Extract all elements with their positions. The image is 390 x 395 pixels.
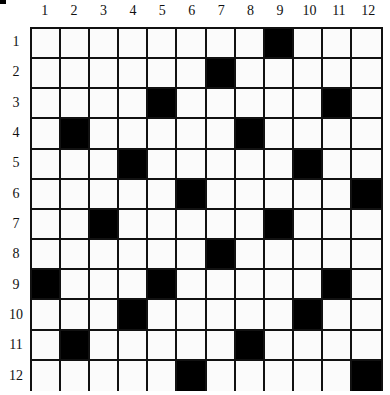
white-cell[interactable] xyxy=(294,59,323,89)
white-cell[interactable] xyxy=(294,240,323,270)
white-cell[interactable] xyxy=(61,89,90,119)
white-cell[interactable] xyxy=(119,59,148,89)
white-cell[interactable] xyxy=(294,29,323,59)
white-cell[interactable] xyxy=(148,240,177,270)
white-cell[interactable] xyxy=(177,300,206,330)
white-cell[interactable] xyxy=(119,119,148,149)
white-cell[interactable] xyxy=(148,150,177,180)
white-cell[interactable] xyxy=(177,240,206,270)
white-cell[interactable] xyxy=(236,210,265,240)
white-cell[interactable] xyxy=(207,210,236,240)
white-cell[interactable] xyxy=(119,89,148,119)
white-cell[interactable] xyxy=(352,150,381,180)
white-cell[interactable] xyxy=(61,150,90,180)
white-cell[interactable] xyxy=(352,29,381,59)
white-cell[interactable] xyxy=(90,180,119,210)
white-cell[interactable] xyxy=(352,300,381,330)
white-cell[interactable] xyxy=(177,89,206,119)
white-cell[interactable] xyxy=(352,89,381,119)
white-cell[interactable] xyxy=(323,331,352,361)
white-cell[interactable] xyxy=(236,361,265,391)
white-cell[interactable] xyxy=(90,59,119,89)
white-cell[interactable] xyxy=(265,150,294,180)
white-cell[interactable] xyxy=(207,180,236,210)
white-cell[interactable] xyxy=(119,210,148,240)
white-cell[interactable] xyxy=(236,89,265,119)
white-cell[interactable] xyxy=(294,180,323,210)
white-cell[interactable] xyxy=(265,89,294,119)
white-cell[interactable] xyxy=(32,180,61,210)
white-cell[interactable] xyxy=(294,270,323,300)
white-cell[interactable] xyxy=(207,150,236,180)
white-cell[interactable] xyxy=(148,361,177,391)
white-cell[interactable] xyxy=(32,240,61,270)
white-cell[interactable] xyxy=(90,300,119,330)
white-cell[interactable] xyxy=(207,331,236,361)
white-cell[interactable] xyxy=(148,59,177,89)
white-cell[interactable] xyxy=(265,331,294,361)
white-cell[interactable] xyxy=(294,89,323,119)
white-cell[interactable] xyxy=(352,210,381,240)
white-cell[interactable] xyxy=(177,119,206,149)
white-cell[interactable] xyxy=(61,29,90,59)
white-cell[interactable] xyxy=(148,210,177,240)
white-cell[interactable] xyxy=(294,331,323,361)
white-cell[interactable] xyxy=(32,150,61,180)
white-cell[interactable] xyxy=(61,59,90,89)
white-cell[interactable] xyxy=(207,270,236,300)
white-cell[interactable] xyxy=(177,59,206,89)
white-cell[interactable] xyxy=(148,119,177,149)
white-cell[interactable] xyxy=(323,150,352,180)
white-cell[interactable] xyxy=(90,150,119,180)
white-cell[interactable] xyxy=(32,29,61,59)
white-cell[interactable] xyxy=(265,270,294,300)
white-cell[interactable] xyxy=(61,270,90,300)
white-cell[interactable] xyxy=(90,89,119,119)
white-cell[interactable] xyxy=(352,240,381,270)
white-cell[interactable] xyxy=(236,270,265,300)
white-cell[interactable] xyxy=(207,29,236,59)
white-cell[interactable] xyxy=(265,180,294,210)
white-cell[interactable] xyxy=(323,240,352,270)
white-cell[interactable] xyxy=(90,29,119,59)
white-cell[interactable] xyxy=(177,29,206,59)
white-cell[interactable] xyxy=(119,29,148,59)
white-cell[interactable] xyxy=(323,361,352,391)
white-cell[interactable] xyxy=(352,270,381,300)
white-cell[interactable] xyxy=(323,180,352,210)
white-cell[interactable] xyxy=(236,180,265,210)
white-cell[interactable] xyxy=(119,331,148,361)
white-cell[interactable] xyxy=(323,59,352,89)
white-cell[interactable] xyxy=(294,210,323,240)
white-cell[interactable] xyxy=(32,89,61,119)
white-cell[interactable] xyxy=(61,300,90,330)
white-cell[interactable] xyxy=(177,150,206,180)
white-cell[interactable] xyxy=(265,240,294,270)
white-cell[interactable] xyxy=(236,59,265,89)
white-cell[interactable] xyxy=(177,270,206,300)
white-cell[interactable] xyxy=(148,300,177,330)
white-cell[interactable] xyxy=(148,29,177,59)
white-cell[interactable] xyxy=(61,240,90,270)
white-cell[interactable] xyxy=(294,361,323,391)
white-cell[interactable] xyxy=(236,300,265,330)
white-cell[interactable] xyxy=(32,300,61,330)
white-cell[interactable] xyxy=(32,59,61,89)
white-cell[interactable] xyxy=(119,240,148,270)
white-cell[interactable] xyxy=(90,119,119,149)
white-cell[interactable] xyxy=(61,180,90,210)
white-cell[interactable] xyxy=(352,119,381,149)
white-cell[interactable] xyxy=(177,331,206,361)
white-cell[interactable] xyxy=(265,59,294,89)
white-cell[interactable] xyxy=(61,361,90,391)
white-cell[interactable] xyxy=(148,180,177,210)
white-cell[interactable] xyxy=(32,210,61,240)
white-cell[interactable] xyxy=(323,29,352,59)
white-cell[interactable] xyxy=(32,119,61,149)
white-cell[interactable] xyxy=(90,361,119,391)
white-cell[interactable] xyxy=(61,210,90,240)
white-cell[interactable] xyxy=(90,270,119,300)
white-cell[interactable] xyxy=(236,150,265,180)
white-cell[interactable] xyxy=(119,361,148,391)
white-cell[interactable] xyxy=(323,210,352,240)
